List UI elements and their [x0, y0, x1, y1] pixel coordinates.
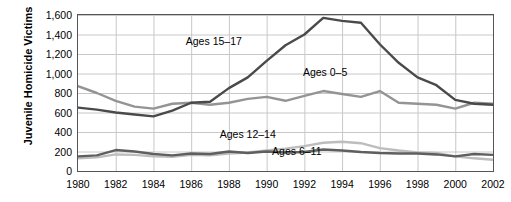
x-axis-tick-labels: 1980198219841986198819901992199419961998… — [0, 0, 511, 202]
x-tick-label: 1996 — [368, 178, 391, 190]
x-tick-label: 2002 — [481, 178, 504, 190]
x-tick-label: 1984 — [142, 178, 165, 190]
chart-container: Juvenile Homicide Victims 02004006008001… — [0, 0, 511, 202]
series-label: Ages 6–11 — [272, 145, 321, 157]
x-tick-label: 1988 — [217, 178, 240, 190]
x-tick-label: 1982 — [104, 178, 127, 190]
series-label: Ages 15–17 — [186, 35, 242, 47]
series-label: Ages 12–14 — [220, 128, 276, 140]
series-label: Ages 0–5 — [303, 66, 347, 78]
x-tick-label: 2000 — [444, 178, 467, 190]
x-tick-label: 1992 — [293, 178, 316, 190]
x-tick-label: 1994 — [330, 178, 353, 190]
x-tick-label: 1986 — [179, 178, 202, 190]
x-tick-label: 1998 — [406, 178, 429, 190]
x-tick-label: 1980 — [66, 178, 89, 190]
x-tick-label: 1990 — [255, 178, 278, 190]
